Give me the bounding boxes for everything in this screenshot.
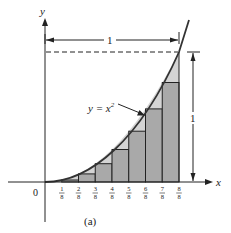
svg-text:3: 3 xyxy=(94,185,97,192)
x-axis-arrow-icon xyxy=(205,179,213,185)
svg-text:8: 8 xyxy=(177,185,180,192)
width-dimension-left-arrow-icon xyxy=(46,38,54,43)
svg-text:8: 8 xyxy=(161,193,164,200)
rectangle-5 xyxy=(112,150,129,183)
tick-label-8-8: 8 8 xyxy=(176,185,182,200)
svg-text:8: 8 xyxy=(60,193,63,200)
tick-label-7-8: 7 8 xyxy=(160,185,166,200)
rectangle-6 xyxy=(129,131,146,182)
height-dimension-label: 1 xyxy=(190,112,196,124)
x-tick-labels: 1 8 2 8 3 8 4 8 5 8 6 8 7 xyxy=(59,185,182,200)
rectangle-4 xyxy=(95,164,112,182)
svg-text:5: 5 xyxy=(127,185,130,192)
rectangle-3 xyxy=(79,174,96,182)
origin-label: 0 xyxy=(33,187,38,198)
tick-label-4-8: 4 8 xyxy=(109,185,115,200)
svg-text:8: 8 xyxy=(94,193,97,200)
height-dimension-top-arrow-icon xyxy=(191,53,196,61)
tick-label-3-8: 3 8 xyxy=(93,185,99,200)
svg-text:8: 8 xyxy=(77,193,80,200)
x-axis-label: x xyxy=(215,176,221,188)
svg-text:7: 7 xyxy=(161,185,165,192)
curve-label: y = x2 xyxy=(87,101,115,114)
svg-text:2: 2 xyxy=(77,185,80,192)
tick-label-6-8: 6 8 xyxy=(143,185,149,200)
rectangle-8 xyxy=(162,83,179,183)
figure-caption: (a) xyxy=(84,215,97,228)
y-axis-label: y xyxy=(39,5,45,17)
width-dimension-label: 1 xyxy=(107,34,113,46)
svg-text:8: 8 xyxy=(177,193,180,200)
svg-text:8: 8 xyxy=(127,193,130,200)
svg-text:1: 1 xyxy=(60,185,63,192)
height-dimension-bottom-arrow-icon xyxy=(191,173,196,181)
tick-label-5-8: 5 8 xyxy=(126,185,132,200)
tick-label-1-8: 1 8 xyxy=(59,185,65,200)
y-axis-arrow-icon xyxy=(42,18,48,26)
curve-label-pointer xyxy=(118,104,140,113)
rectangle-7 xyxy=(146,109,163,182)
tick-label-2-8: 2 8 xyxy=(76,185,82,200)
svg-text:4: 4 xyxy=(110,185,114,192)
svg-text:8: 8 xyxy=(110,193,113,200)
riemann-sum-figure: x y 0 1 1 y = x2 1 8 2 8 3 8 xyxy=(0,0,231,233)
svg-text:8: 8 xyxy=(144,193,147,200)
width-dimension-right-arrow-icon xyxy=(170,38,178,43)
svg-text:6: 6 xyxy=(144,185,148,192)
